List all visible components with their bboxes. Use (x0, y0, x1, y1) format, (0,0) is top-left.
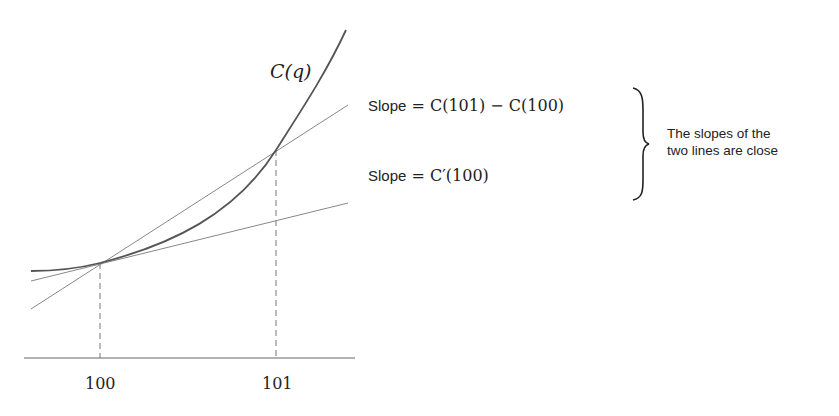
curly-brace (633, 88, 649, 200)
slope-word: Slope (368, 97, 406, 114)
tangent-line (31, 203, 348, 281)
tick-label-101: 101 (262, 374, 293, 393)
curve-label: C(q) (270, 60, 312, 82)
tangent-expression: C′(100) (430, 166, 489, 185)
secant-slope-label: Slope = C(101) − C(100) (368, 96, 564, 115)
secant-expression: C(101) − C(100) (430, 96, 564, 115)
cost-curve-diagram (0, 0, 839, 416)
equals-sign: = (406, 96, 430, 115)
tangent-slope-label: Slope = C′(100) (368, 166, 489, 185)
brace-note: The slopes of the two lines are close (667, 125, 778, 159)
equals-sign: = (406, 166, 430, 185)
note-line-1: The slopes of the (667, 125, 778, 142)
note-line-2: two lines are close (667, 142, 778, 159)
slope-word: Slope (368, 167, 406, 184)
tick-label-100: 100 (85, 374, 116, 393)
secant-line (31, 105, 348, 309)
